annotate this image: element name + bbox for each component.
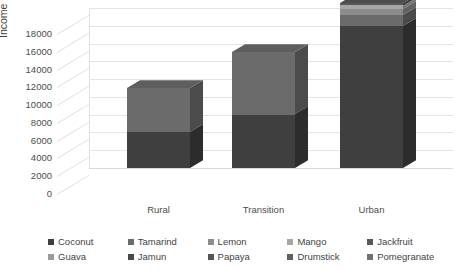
bar-top-face (127, 80, 203, 88)
depth-gridline (57, 139, 90, 159)
chart-container: RuralTransitionUrban 0200040006000800010… (0, 0, 457, 270)
legend-swatch-icon (128, 239, 134, 245)
legend-swatch-icon (208, 254, 214, 260)
bar-segment-tamarind (127, 88, 190, 132)
legend-label: Lemon (218, 237, 247, 247)
legend-item-mango[interactable]: Mango (287, 237, 367, 247)
x-axis-tick-label: Transition (232, 204, 295, 215)
depth-gridline (57, 14, 90, 34)
legend-label: Coconut (58, 237, 93, 247)
bar-column-urban[interactable] (340, 3, 403, 168)
depth-gridline (57, 86, 90, 106)
legend-label: Tamarind (138, 237, 177, 247)
legend-label: Guava (58, 252, 86, 262)
y-axis-title: Income in Rs/household/year (0, 0, 9, 38)
y-axis-tick-label: 16000 (0, 47, 52, 57)
depth-gridline (57, 68, 90, 88)
bar-front-face (340, 3, 403, 168)
legend-label: Jackfruit (377, 237, 412, 247)
depth-gridline (57, 103, 90, 123)
bar-segment-tamarind (232, 52, 295, 114)
y-axis-tick-label: 14000 (0, 65, 52, 75)
legend-label: Drumstick (297, 252, 339, 262)
bar-front-face (127, 88, 190, 168)
y-axis-tick-label: 0 (0, 189, 52, 199)
y-axis-tick-label: 10000 (0, 100, 52, 110)
legend-item-pomegranate[interactable]: Pomegranate (367, 252, 447, 262)
legend-label: Pomegranate (377, 252, 434, 262)
legend-row-1: Coconut Tamarind Lemon Mango Jackfruit (10, 234, 447, 249)
depth-gridline (57, 50, 90, 70)
plot-area: RuralTransitionUrban (57, 8, 452, 194)
bar-side-segment (403, 18, 416, 168)
chart-floor (57, 168, 452, 194)
legend-item-tamarind[interactable]: Tamarind (128, 237, 208, 247)
x-axis-line (89, 168, 452, 169)
legend-swatch-icon (367, 254, 373, 260)
y-axis-tick-label: 8000 (0, 118, 52, 128)
y-axis-tick-label: 6000 (0, 136, 52, 146)
legend-item-lemon[interactable]: Lemon (208, 237, 288, 247)
depth-gridline (57, 121, 90, 141)
legend-swatch-icon (48, 254, 54, 260)
legend-item-drumstick[interactable]: Drumstick (287, 252, 367, 262)
legend-item-coconut[interactable]: Coconut (48, 237, 128, 247)
legend-row-2: Guava Jamun Papaya Drumstick Pomegranate (10, 249, 447, 264)
legend-swatch-icon (287, 239, 293, 245)
bar-side-segment (295, 45, 308, 115)
chart-legend: Coconut Tamarind Lemon Mango Jackfruit (0, 234, 457, 264)
legend-swatch-icon (287, 254, 293, 260)
bar-side-face (295, 45, 308, 168)
bar-column-transition[interactable] (232, 52, 295, 168)
legend-label: Jamun (138, 252, 167, 262)
legend-item-guava[interactable]: Guava (48, 252, 128, 262)
y-axis-tick-label: 4000 (0, 153, 52, 163)
bar-side-segment (295, 107, 308, 168)
bar-side-face (190, 80, 203, 168)
bar-column-rural[interactable] (127, 88, 190, 168)
x-axis-tick-label: Urban (340, 204, 403, 215)
bar-segment-tamarind (340, 15, 403, 26)
bar-segment-coconut (340, 26, 403, 168)
bar-segment-coconut (232, 115, 295, 168)
legend-swatch-icon (208, 239, 214, 245)
x-axis-tick-label: Rural (127, 204, 190, 215)
legend-label: Mango (297, 237, 326, 247)
legend-swatch-icon (128, 254, 134, 260)
y-axis-tick-label: 2000 (0, 171, 52, 181)
legend-item-jamun[interactable]: Jamun (128, 252, 208, 262)
depth-gridline (57, 32, 90, 52)
legend-label: Papaya (218, 252, 250, 262)
legend-item-papaya[interactable]: Papaya (208, 252, 288, 262)
legend-swatch-icon (367, 239, 373, 245)
legend-swatch-icon (48, 239, 54, 245)
y-axis-tick-label: 12000 (0, 82, 52, 92)
bar-segment-coconut (127, 132, 190, 168)
bar-front-face (232, 52, 295, 168)
legend-item-jackfruit[interactable]: Jackfruit (367, 237, 447, 247)
bar-side-face (403, 0, 416, 168)
